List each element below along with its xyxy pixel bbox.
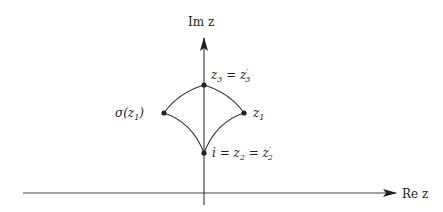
re-axis-label: Re z [402,187,428,201]
im-axis-label: Im z [188,15,214,29]
point-z1 [241,110,246,115]
point-i [201,150,206,155]
label-i: i = z2 = z′2 [212,145,273,162]
point-z3 [201,82,206,87]
hyperbolic-diagram: Im z Re z z3 = z′3 i = z2 = z′2 σ(z1) z1 [0,0,443,212]
arc-left-bottom [164,113,204,153]
label-z1: z1 [252,106,264,122]
label-sigma-z1: σ(z1) [115,106,144,122]
point-sigma-z1 [161,110,166,115]
arc-top-right [204,85,244,113]
arc-top-left [164,85,204,113]
label-z3: z3 = z′3 [210,67,250,84]
